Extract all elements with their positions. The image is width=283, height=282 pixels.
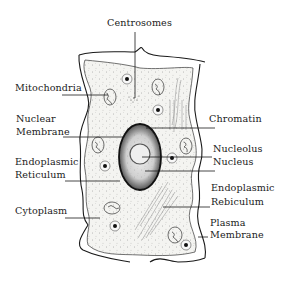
label-centrosomes: Centrosomes [107, 17, 172, 28]
label-plasma-membrane-line1: Plasma [210, 217, 246, 228]
label-chromatin: Chromatin [209, 113, 262, 124]
label-nucleolus: Nucleolus [213, 143, 263, 154]
cell-diagram: Centrosomes Mitochondria Nuclear Membran… [0, 0, 283, 282]
label-plasma-membrane-line2: Membrane [210, 229, 264, 240]
label-endoplasmic-reticulum-left-line2: Reticulum [15, 169, 66, 180]
label-nuclear-membrane-line2: Membrane [16, 126, 70, 137]
label-cytoplasm: Cytoplasm [15, 205, 67, 216]
label-mitochondria: Mitochondria [15, 82, 82, 93]
label-endoplasmic-reticulum-left-line1: Endoplasmic [15, 156, 79, 167]
label-nucleus: Nucleus [213, 156, 254, 167]
label-endoplasmic-reticulum-right-line2: Rebiculum [211, 196, 264, 207]
nucleolus [130, 144, 150, 164]
label-endoplasmic-reticulum-right-line1: Endoplasmic [211, 182, 275, 193]
label-nuclear-membrane-line1: Nuclear [16, 113, 56, 124]
